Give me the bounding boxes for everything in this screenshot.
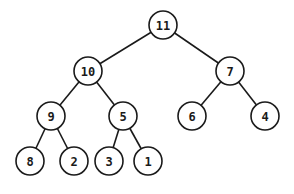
tree-node-2: 2 (60, 147, 88, 175)
tree-node-9: 9 (37, 102, 65, 130)
tree-node-4: 4 (251, 102, 279, 130)
node-label: 6 (188, 110, 195, 124)
tree-node-1: 1 (134, 147, 162, 175)
tree-nodes: 1110795648231 (16, 11, 279, 175)
node-label: 9 (47, 110, 54, 124)
node-label: 8 (26, 155, 33, 169)
node-label: 10 (81, 65, 95, 79)
tree-node-10: 10 (74, 57, 102, 85)
node-label: 11 (156, 19, 170, 33)
node-label: 3 (105, 155, 112, 169)
tree-node-11: 11 (149, 11, 177, 39)
node-label: 5 (119, 110, 126, 124)
tree-node-6: 6 (178, 102, 206, 130)
tree-node-3: 3 (95, 147, 123, 175)
heap-tree-diagram: 1110795648231 (0, 0, 294, 194)
node-label: 2 (70, 155, 77, 169)
tree-node-8: 8 (16, 147, 44, 175)
node-label: 4 (261, 110, 268, 124)
tree-node-7: 7 (216, 57, 244, 85)
tree-node-5: 5 (109, 102, 137, 130)
tree-edges (30, 25, 265, 161)
node-label: 1 (144, 155, 151, 169)
node-label: 7 (226, 65, 233, 79)
